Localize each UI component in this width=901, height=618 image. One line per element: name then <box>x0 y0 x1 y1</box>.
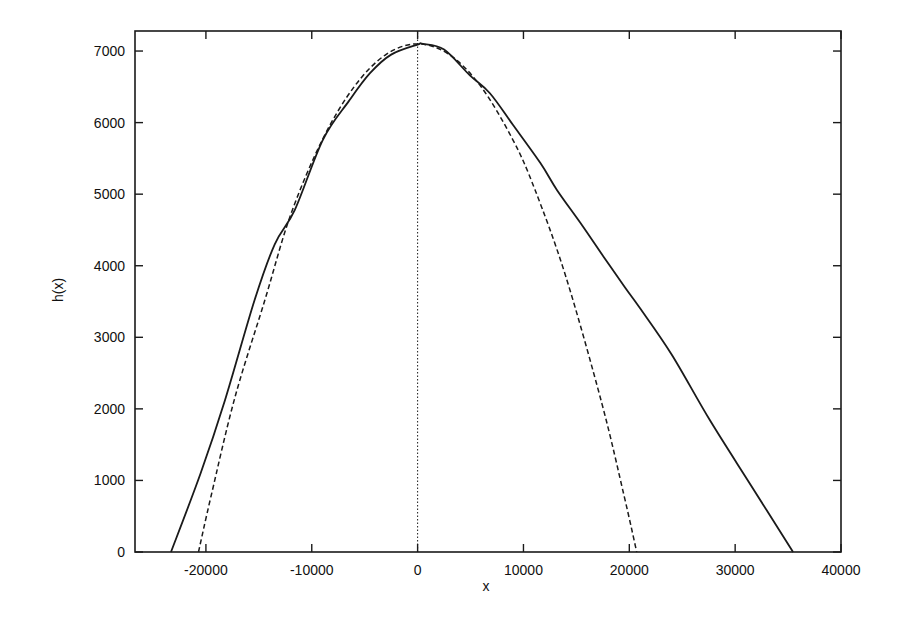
y-tick-label: 1000 <box>94 472 125 488</box>
x-tick-label: 20000 <box>610 562 649 578</box>
plot-frame <box>135 31 841 552</box>
x-axis-label: x <box>483 578 490 594</box>
y-axis-label: h(x) <box>50 278 66 302</box>
y-tick-label: 5000 <box>94 186 125 202</box>
y-tick-label: 3000 <box>94 329 125 345</box>
y-axis-ticks: 01000200030004000500060007000 <box>94 43 841 560</box>
line-chart: -20000-10000010000200003000040000 010002… <box>0 0 901 618</box>
y-tick-label: 7000 <box>94 43 125 59</box>
x-tick-label: 40000 <box>822 562 861 578</box>
x-tick-label: -20000 <box>184 562 228 578</box>
series-layer <box>171 31 793 552</box>
y-tick-label: 0 <box>117 544 125 560</box>
y-tick-label: 6000 <box>94 115 125 131</box>
series-solid-line <box>171 43 793 552</box>
x-tick-label: 0 <box>414 562 422 578</box>
x-tick-label: 30000 <box>716 562 755 578</box>
x-tick-label: -10000 <box>290 562 334 578</box>
y-tick-label: 2000 <box>94 401 125 417</box>
x-axis-ticks: -20000-10000010000200003000040000 <box>184 31 861 578</box>
y-tick-label: 4000 <box>94 258 125 274</box>
x-tick-label: 10000 <box>504 562 543 578</box>
